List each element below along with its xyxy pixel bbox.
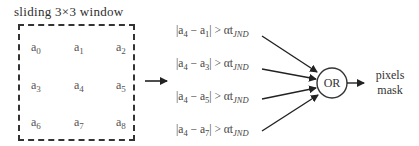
connector-arrows — [0, 0, 419, 146]
output-line-2: mask — [366, 83, 414, 98]
cond1-to-or-arrow — [262, 36, 317, 72]
cond2-to-or-arrow — [262, 69, 316, 79]
cond4-to-or-arrow — [262, 95, 318, 131]
or-label: OR — [320, 76, 344, 91]
cond3-to-or-arrow — [262, 88, 316, 99]
output-label: pixels mask — [366, 68, 414, 98]
output-line-1: pixels — [366, 68, 414, 83]
